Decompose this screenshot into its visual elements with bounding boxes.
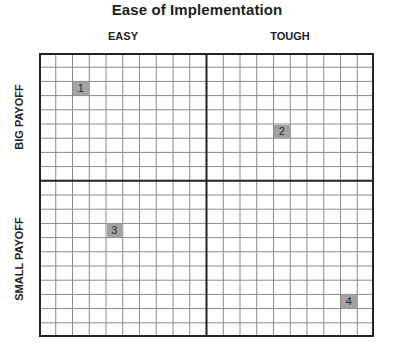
- marker-label: 3: [111, 224, 117, 236]
- column-label-easy: EASY: [73, 30, 173, 42]
- marker-label: 4: [346, 295, 352, 307]
- marker-2: 2: [274, 125, 290, 138]
- chart-title: Ease of Implementation: [0, 1, 394, 18]
- marker-4: 4: [341, 295, 357, 308]
- priority-matrix-grid: 1 2 3 4: [39, 53, 374, 337]
- marker-1: 1: [73, 82, 89, 95]
- marker-3: 3: [107, 224, 123, 237]
- row-label-big-payoff: BIG PAYOFF: [13, 84, 25, 149]
- marker-label: 1: [78, 82, 84, 94]
- grid-lines: [39, 53, 374, 337]
- column-label-tough: TOUGH: [240, 30, 340, 42]
- marker-label: 2: [279, 125, 285, 137]
- row-label-small-payoff: SMALL PAYOFF: [13, 217, 25, 301]
